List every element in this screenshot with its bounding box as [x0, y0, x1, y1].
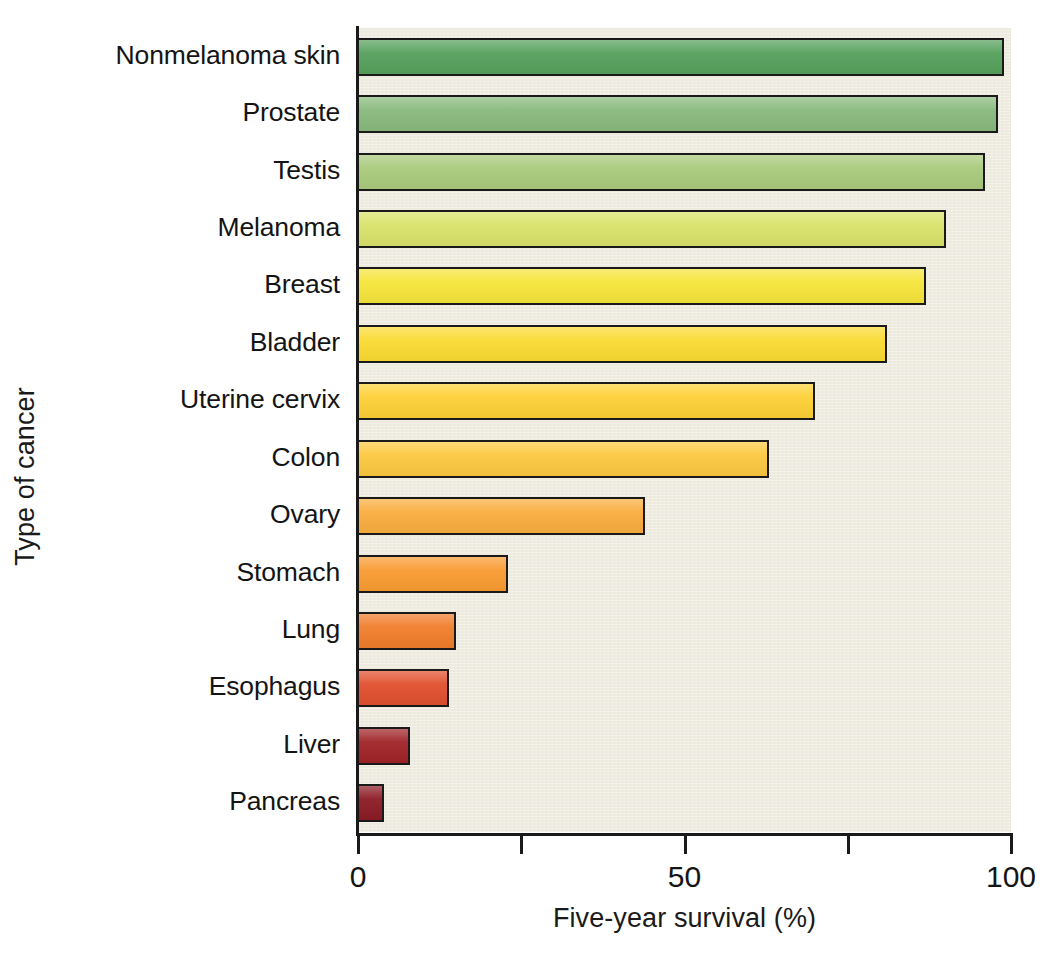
y-tick-label-melanoma: Melanoma: [217, 212, 340, 243]
y-tick-label-pancreas: Pancreas: [229, 786, 340, 817]
bar-sheen: [359, 269, 924, 303]
bar-breast: [357, 267, 926, 305]
bar-bladder: [357, 325, 887, 363]
bar-sheen: [359, 384, 813, 418]
bar-nonmelanoma-skin: [357, 38, 1004, 76]
y-tick-label-testis: Testis: [273, 155, 340, 186]
y-tick-label-prostate: Prostate: [243, 97, 341, 128]
x-tick-25: [520, 836, 523, 854]
bar-sheen: [359, 97, 996, 131]
bar-pancreas: [357, 784, 384, 822]
y-tick-label-colon: Colon: [272, 442, 341, 473]
bar-sheen: [359, 442, 767, 476]
bar-uterine-cervix: [357, 382, 815, 420]
x-tick-100: [1010, 836, 1013, 854]
x-tick-label-0: 0: [350, 860, 367, 894]
bar-testis: [357, 153, 985, 191]
figure-bar-chart-five-year-survival: Type of cancer Nonmelanoma skinProstateT…: [0, 0, 1061, 953]
x-tick-50: [684, 836, 687, 854]
bar-sheen: [359, 557, 506, 591]
bar-sheen: [359, 499, 643, 533]
bar-sheen: [359, 614, 454, 648]
y-tick-label-esophagus: Esophagus: [209, 671, 340, 702]
y-tick-label-breast: Breast: [264, 269, 340, 300]
y-tick-label-ovary: Ovary: [270, 499, 340, 530]
bar-sheen: [359, 786, 382, 820]
y-tick-label-stomach: Stomach: [236, 557, 340, 588]
bar-colon: [357, 440, 769, 478]
bar-stomach: [357, 555, 508, 593]
y-tick-label-liver: Liver: [283, 729, 340, 760]
y-tick-label-bladder: Bladder: [250, 327, 340, 358]
x-axis-title: Five-year survival (%): [358, 903, 1011, 934]
plot-area: [358, 28, 1011, 832]
y-axis-line: [356, 26, 359, 836]
bar-sheen: [359, 40, 1002, 74]
cropped-title-remnant: [0, 0, 1061, 10]
bar-melanoma: [357, 210, 946, 248]
y-axis-category-labels: Nonmelanoma skinProstateTestisMelanomaBr…: [0, 28, 348, 832]
bar-lung: [357, 612, 456, 650]
y-tick-label-lung: Lung: [282, 614, 340, 645]
y-tick-label-uterine-cervix: Uterine cervix: [180, 384, 340, 415]
bar-ovary: [357, 497, 645, 535]
bar-esophagus: [357, 669, 449, 707]
bar-sheen: [359, 671, 447, 705]
bar-liver: [357, 727, 410, 765]
x-tick-0: [357, 836, 360, 854]
bar-sheen: [359, 212, 944, 246]
bar-sheen: [359, 729, 408, 763]
bar-sheen: [359, 327, 885, 361]
x-tick-75: [847, 836, 850, 854]
x-tick-label-50: 50: [668, 860, 701, 894]
bar-prostate: [357, 95, 998, 133]
x-tick-label-100: 100: [986, 860, 1036, 894]
y-tick-label-nonmelanoma-skin: Nonmelanoma skin: [116, 40, 340, 71]
bar-sheen: [359, 155, 983, 189]
